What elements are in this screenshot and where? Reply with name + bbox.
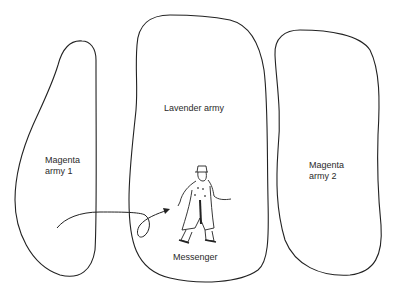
messenger-label: Messenger [173, 252, 218, 263]
route-arrowhead-icon [163, 208, 170, 214]
diagram-canvas [0, 0, 395, 292]
lavender-army-region [129, 15, 268, 282]
messenger-figure-icon [178, 166, 231, 243]
lavender-army-label: Lavender army [164, 103, 224, 114]
magenta-army-1-line1: Magenta [45, 155, 80, 166]
magenta-army-2-line1: Magenta [309, 160, 344, 171]
magenta-army-1-label: Magenta army 1 [45, 155, 80, 177]
messenger-route-path [57, 210, 168, 237]
magenta-army-2-line2: army 2 [309, 171, 344, 182]
magenta-army-2-label: Magenta army 2 [309, 160, 344, 182]
magenta-army-1-line2: army 1 [45, 166, 80, 177]
magenta-army-2-region [275, 30, 381, 275]
